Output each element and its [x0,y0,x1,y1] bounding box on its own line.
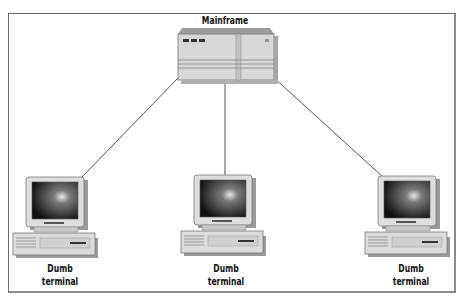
mainframe-icon [174,28,278,84]
link-mainframe-terminal-left [82,78,178,177]
dumb-terminal-icon [180,174,270,258]
terminal-center-label-line2: terminal [201,275,252,288]
terminal-left-label: Dumb terminal [35,262,86,288]
terminal-left-label-line1: Dumb [35,262,86,275]
dumb-terminal-icon [12,176,102,260]
terminal-center-label: Dumb terminal [201,262,252,288]
terminal-right-label-line1: Dumb [386,262,437,275]
terminal-right-label-line2: terminal [386,275,437,288]
terminal-center-label-line1: Dumb [201,262,252,275]
link-mainframe-terminal-right [272,76,384,178]
dumb-terminal-icon [364,175,454,259]
terminal-left-label-line2: terminal [35,275,86,288]
mainframe-label: Mainframe [200,14,251,27]
terminal-right-label: Dumb terminal [386,262,437,288]
